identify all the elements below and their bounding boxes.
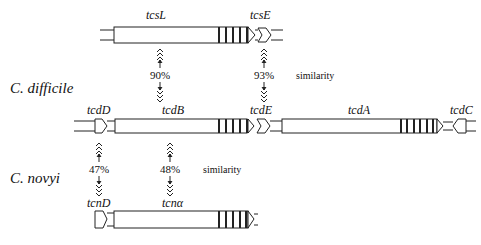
tcnD-arrow-icon — [95, 211, 107, 228]
gene-map-diagram — [0, 0, 481, 245]
similarity-label-bottom: similarity — [203, 165, 241, 175]
gene-label-tcdA: tcdA — [348, 104, 370, 116]
top-locus — [100, 27, 283, 43]
similarity-tcsE-tcdE: 93% — [254, 70, 274, 81]
tcnA-gene-box — [114, 211, 248, 228]
tcsE-arrow-icon — [258, 28, 271, 42]
middle-locus — [74, 119, 476, 133]
similarity-tcdB-tcnA: 48% — [160, 164, 180, 175]
tcsL-gene-box — [114, 27, 248, 43]
similarity-label-top: similarity — [296, 71, 334, 81]
gene-label-tcsE: tcsE — [250, 9, 271, 21]
gene-label-tcdB: tcdB — [162, 104, 184, 116]
similarity-tcsL-tcdB: 90% — [150, 70, 170, 81]
gene-label-tcdD: tcdD — [87, 104, 110, 116]
tcnA-arrow-icon — [248, 211, 254, 228]
gene-label-tcnD: tcnD — [87, 197, 110, 209]
tcdA-arrow-icon — [437, 119, 443, 133]
tcdE-arrow-icon — [257, 119, 270, 133]
tcdB-arrow-icon — [248, 119, 254, 133]
gene-label-tcdE: tcdE — [250, 104, 272, 116]
gene-label-tcsL: tcsL — [146, 9, 166, 21]
tcdC-arrow-icon — [453, 119, 466, 133]
gene-label-tcnA: tcnα — [162, 197, 183, 209]
organism-label-c-novyi: C. novyi — [10, 171, 60, 186]
bottom-locus — [95, 211, 258, 228]
organism-label-c-difficile: C. difficile — [10, 81, 73, 96]
tcdB-gene-box — [115, 119, 247, 133]
similarity-tcdD-tcnD: 47% — [89, 164, 109, 175]
tcdD-arrow-icon — [95, 119, 107, 133]
tcsL-arrow-icon — [248, 27, 255, 43]
gene-label-tcdC: tcdC — [450, 104, 473, 116]
